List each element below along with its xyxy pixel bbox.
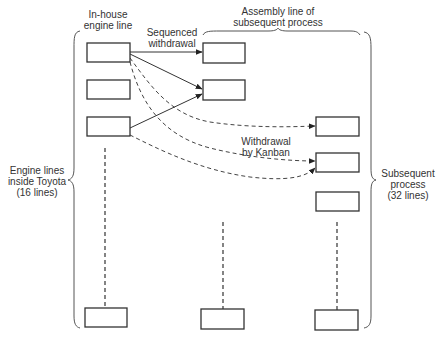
in-house-engine-line-label: In-house engine line (78, 9, 138, 31)
label-line: Assembly line of (228, 6, 328, 17)
label-line: process (378, 179, 438, 190)
sequenced-arrow-3 (130, 94, 202, 128)
withdrawal-by-kanban-label: Withdrawal by Kanban (236, 136, 296, 158)
assembly-line-box-2 (203, 80, 245, 100)
label-line: (32 lines) (378, 190, 438, 201)
label-line: by Kanban (236, 147, 296, 158)
engine-line-box-2 (87, 80, 130, 99)
engine-line-box-1 (87, 43, 130, 62)
assembly-line-box-1 (203, 43, 245, 63)
top-brace (203, 28, 360, 35)
subsequent-process-label: Subsequent process (32 lines) (378, 168, 438, 201)
label-line: subsequent process (228, 17, 328, 28)
label-line: Engine lines (6, 165, 68, 176)
right-brace (364, 32, 376, 328)
engine-line-box-3 (87, 117, 130, 136)
subsequent-box-3 (316, 192, 359, 211)
label-line: engine line (78, 20, 138, 31)
label-line: Sequenced (142, 27, 202, 38)
label-line: In-house (78, 9, 138, 20)
subsequent-box-1 (316, 117, 359, 136)
label-line: Withdrawal (236, 136, 296, 147)
sequenced-withdrawal-label: Sequenced withdrawal (142, 27, 202, 49)
label-line: inside Toyota (6, 176, 68, 187)
engine-lines-inside-toyota-label: Engine lines inside Toyota (16 lines) (6, 165, 68, 198)
left-brace (68, 31, 80, 328)
subsequent-box-last (315, 310, 358, 330)
subsequent-box-2 (316, 153, 359, 172)
label-line: withdrawal (142, 38, 202, 49)
label-line: Subsequent (378, 168, 438, 179)
assembly-line-box-last (201, 309, 244, 329)
assembly-line-label: Assembly line of subsequent process (228, 6, 328, 28)
engine-line-box-last (85, 308, 127, 327)
label-line: (16 lines) (6, 187, 68, 198)
sequenced-arrow-2 (130, 54, 202, 89)
